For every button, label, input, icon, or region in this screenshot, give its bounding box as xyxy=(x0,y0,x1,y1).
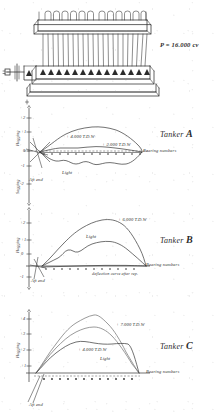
chart-b-title-letter: B xyxy=(186,234,193,245)
chart-a-title-prefix: Tanker xyxy=(160,130,184,139)
chart-b-ytick-3: -1 xyxy=(20,274,24,279)
bearing-number-markers xyxy=(43,378,133,380)
chart-a-hogging-label: Hogging xyxy=(15,131,20,146)
y-axis xyxy=(27,310,32,383)
aft-end-crosshatch xyxy=(28,374,44,403)
chart-b-deflection-note: deflection curve after rep. xyxy=(92,271,138,276)
chart-c-aft-label: Aft end xyxy=(29,402,43,407)
x-axis xyxy=(26,373,150,380)
curve-loaded-b xyxy=(42,220,146,266)
chart-a-ytick-1: +1 xyxy=(21,129,26,134)
chart-c-svg xyxy=(0,310,218,413)
y-axis xyxy=(27,106,32,206)
chart-a-ytick-2: 0 xyxy=(23,148,25,153)
chart-c-ytick-3: +1 xyxy=(21,363,26,368)
chart-c-ytick-1: +3 xyxy=(20,331,25,336)
chart-a-sagging-label: Sagging xyxy=(15,180,20,194)
chart-b-aft-label: Aft end xyxy=(31,278,45,283)
chart-c-ytick-2: +2 xyxy=(20,347,25,352)
chart-b-x-axis-label: Bearing numbers xyxy=(146,262,179,267)
bearing-number-markers xyxy=(43,153,141,155)
chart-b-svg xyxy=(0,207,218,310)
chart-a-svg xyxy=(0,104,218,207)
chart-tanker-b: Tanker B + 6.000 T.D.W Light deflection … xyxy=(0,207,218,310)
chart-a-x-axis-label: Bearing numbers xyxy=(143,148,176,153)
chart-c-light-label: Light xyxy=(100,356,110,361)
chart-b-title-prefix: Tanker xyxy=(160,236,184,245)
aft-end-crosshatch xyxy=(30,257,46,279)
chart-c-x-axis-label: Bearing numbers xyxy=(146,369,179,374)
chart-c-ytick-0: +4 xyxy=(20,316,25,321)
chart-a-aft-label: Aft end xyxy=(29,177,43,182)
chart-b-loaded-label: + 6.000 T.D.W xyxy=(118,217,147,222)
chart-a-ytick-3: -1 xyxy=(21,163,25,168)
cylinder-covers xyxy=(38,11,147,20)
chart-a-light-label: Light xyxy=(62,170,72,175)
main-bearing-markers xyxy=(40,69,150,75)
aft-end-crosshatch xyxy=(26,138,50,168)
chart-a-ytick-0: +2 xyxy=(20,115,25,120)
engine-drawing-svg xyxy=(0,0,218,104)
chart-a-title-letter: A xyxy=(186,128,193,139)
chart-a-loaded-label: + 4.000 T.D.W xyxy=(66,134,95,139)
chart-tanker-c: Tanker C + 7.000 T.D.W + 4.000 T.D.W Lig… xyxy=(0,310,218,413)
engineering-figure: P = 16.000 cv xyxy=(0,0,218,413)
engine-outline xyxy=(3,11,159,104)
curve-light-b xyxy=(42,241,146,266)
chart-c-hogging-label: Hogging xyxy=(15,343,20,358)
chart-b-ytick-2: 0 xyxy=(21,251,23,256)
chart-b-light-label: Light xyxy=(86,234,96,239)
thrust-bearing-housing xyxy=(3,64,36,81)
chart-b-hogging-label: Hogging xyxy=(15,238,20,253)
chart-a-ballast-label: + 2.000 T.D.W xyxy=(102,142,131,147)
chart-b-ytick-0: +2 xyxy=(20,220,25,225)
engine-power-label: P = 16.000 cv xyxy=(160,41,199,48)
chart-a-ytick-4: -2 xyxy=(20,181,24,186)
chart-a-title: Tanker A xyxy=(160,128,193,139)
chart-c-ballast-label: + 4.000 T.D.W xyxy=(78,347,107,352)
bearing-number-markers xyxy=(45,268,135,270)
chart-c-title: Tanker C xyxy=(160,340,193,351)
chart-c-title-prefix: Tanker xyxy=(160,342,184,351)
a-frame-columns xyxy=(43,34,147,66)
engine-drawing: P = 16.000 cv xyxy=(0,0,218,104)
chart-b-ytick-1: +1 xyxy=(21,237,26,242)
curve-light-a xyxy=(40,152,142,165)
chart-b-title: Tanker B xyxy=(160,234,193,245)
chart-c-loaded-label: + 7.000 T.D.W xyxy=(116,322,145,327)
entablature xyxy=(34,20,151,34)
curve-loaded-a xyxy=(40,127,142,152)
chart-c-title-letter: C xyxy=(186,340,193,351)
chart-tanker-a: Tanker A + 4.000 T.D.W + 2.000 T.D.W Lig… xyxy=(0,104,218,207)
